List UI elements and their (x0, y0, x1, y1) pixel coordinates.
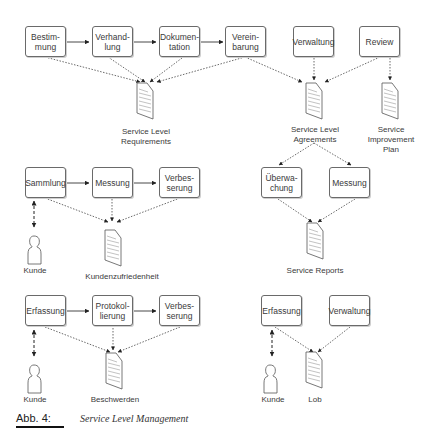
box-sammlung: Sammlung (25, 167, 66, 198)
document-icon (306, 83, 322, 119)
figure-caption: Abb. 4: Service Level Management (16, 412, 188, 428)
document-icon (137, 83, 153, 119)
document-icon (106, 353, 122, 389)
box-review: Review (359, 26, 400, 57)
box-dokumentation: Dokumen- tation (159, 26, 200, 57)
diagram-canvas (0, 0, 438, 433)
label-lob: Lob (308, 395, 321, 405)
box-vereinbarung: Verein- barung (225, 26, 266, 57)
label-kunde: Kunde (23, 266, 46, 276)
box-messung: Messung (92, 167, 133, 198)
box-verhandlung: Verhand- lung (92, 26, 133, 57)
box-verbesserung-complaints: Verbes- serung (159, 295, 200, 326)
box-erfassung: Erfassung (25, 295, 66, 326)
box-ueberwachung: Überwa- chung (261, 167, 302, 198)
box-messung-sla: Messung (329, 167, 370, 198)
document-icon (105, 230, 121, 266)
label-beschwerden: Beschwerden (91, 395, 139, 405)
label-kunde-complaints: Kunde (23, 395, 46, 405)
caption-title: Service Level Management (80, 413, 188, 424)
document-icon (306, 352, 322, 388)
person-icon (264, 365, 277, 393)
label-service-reports: Service Reports (287, 266, 344, 276)
box-verwaltung-praise: Verwaltung (329, 295, 370, 326)
person-icon (28, 236, 41, 264)
label-kundenzufriedenheit: Kundenzufriedenheit (85, 272, 158, 282)
label-kunde-praise: Kunde (261, 395, 284, 405)
label-service-level-requirements: Service Level Requirements (121, 127, 171, 147)
box-erfassung-praise: Erfassung (261, 295, 302, 326)
person-icon (28, 365, 41, 393)
box-verbesserung: Verbes- serung (159, 167, 200, 198)
label-service-level-agreements: Service Level Agreements (291, 125, 339, 145)
caption-number: Abb. 4: (16, 412, 64, 428)
box-verwaltung: Verwaltung (293, 26, 334, 57)
document-icon (307, 223, 323, 259)
label-service-improvement-plan: Service Improvement Plan (368, 125, 415, 155)
document-icon (382, 83, 398, 119)
box-protokollierung: Protokol- lierung (92, 295, 133, 326)
box-bestimmung: Bestim- mung (25, 26, 66, 57)
